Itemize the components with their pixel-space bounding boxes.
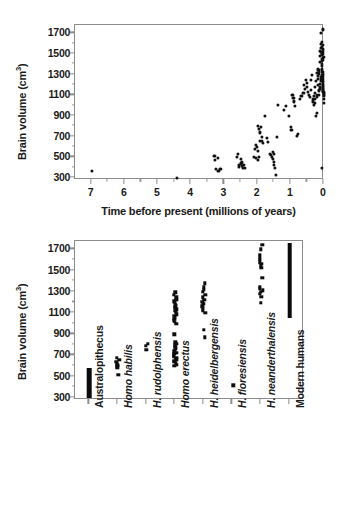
y-tick-label: 1700 bbox=[26, 242, 70, 254]
x-tick-mark bbox=[322, 179, 323, 184]
category-tick-mark bbox=[174, 399, 175, 404]
data-point bbox=[202, 328, 205, 331]
data-point bbox=[293, 100, 296, 103]
data-point bbox=[115, 356, 118, 359]
data-point bbox=[314, 114, 317, 117]
y-tick-label: 1700 bbox=[26, 26, 70, 38]
data-point bbox=[321, 166, 324, 169]
data-point bbox=[237, 153, 240, 156]
x-tick-mark bbox=[256, 179, 257, 184]
data-point bbox=[302, 92, 305, 95]
data-point bbox=[146, 342, 149, 345]
data-point bbox=[311, 73, 314, 76]
x-tick-label: 5 bbox=[154, 186, 160, 198]
x-tick-label: 1 bbox=[287, 186, 293, 198]
data-point bbox=[258, 285, 261, 288]
x-tick-mark bbox=[190, 179, 191, 184]
y-tick-label: 700 bbox=[26, 348, 70, 360]
data-point bbox=[274, 173, 277, 176]
category-tick-mark bbox=[145, 399, 146, 404]
range-bar bbox=[287, 243, 292, 318]
y-tick-label: 900 bbox=[26, 327, 70, 339]
y-tick-label: 500 bbox=[26, 370, 70, 382]
y-tick-label: 1500 bbox=[26, 47, 70, 59]
data-point bbox=[90, 169, 93, 172]
x-tick-label: 6 bbox=[121, 186, 127, 198]
category-label-2: Homo habilis bbox=[122, 344, 134, 408]
data-point bbox=[202, 285, 205, 288]
data-point bbox=[256, 158, 259, 161]
category-label-3: H. rudolphensis bbox=[151, 332, 163, 408]
data-point bbox=[322, 98, 325, 101]
y-tick-label: 300 bbox=[26, 171, 70, 183]
data-point bbox=[273, 166, 276, 169]
x-axis-label: Time before present (millions of years) bbox=[74, 205, 323, 217]
data-point bbox=[116, 373, 119, 376]
y-tick-label: 1300 bbox=[26, 285, 70, 297]
x-tick-mark-minor bbox=[206, 179, 207, 182]
y-tick-label: 1100 bbox=[26, 306, 70, 318]
data-point bbox=[312, 103, 315, 106]
y-tick-label: 300 bbox=[26, 391, 70, 403]
data-point bbox=[259, 126, 262, 129]
data-point bbox=[259, 248, 262, 251]
x-tick-label: 7 bbox=[88, 186, 94, 198]
x-tick-mark-minor bbox=[107, 179, 108, 182]
data-point bbox=[203, 282, 206, 285]
data-point bbox=[300, 95, 303, 98]
data-point bbox=[174, 291, 177, 294]
x-tick-label: 0 bbox=[320, 186, 326, 198]
figure-container: Brain volume (cm3) 300500700900110013001… bbox=[0, 0, 348, 523]
data-point bbox=[322, 101, 325, 104]
y-tick-label: 1500 bbox=[26, 264, 70, 276]
data-point bbox=[259, 131, 262, 134]
data-point bbox=[318, 90, 321, 93]
data-point bbox=[322, 55, 325, 58]
y-tick-label: 700 bbox=[26, 130, 70, 142]
data-point bbox=[232, 383, 235, 386]
data-point bbox=[176, 176, 179, 179]
data-point bbox=[306, 82, 309, 85]
x-tick-mark bbox=[223, 179, 224, 184]
category-tick-mark bbox=[288, 399, 289, 404]
data-point bbox=[203, 336, 206, 339]
y-tick-label: 1300 bbox=[26, 68, 70, 80]
data-point bbox=[145, 348, 148, 351]
x-tick-mark-minor bbox=[239, 179, 240, 182]
data-point bbox=[315, 111, 318, 114]
chart-brain-volume-vs-time: Brain volume (cm3) 300500700900110013001… bbox=[0, 0, 348, 232]
data-point bbox=[284, 104, 287, 107]
y-tick-label: 1100 bbox=[26, 88, 70, 100]
y-tick-label: 900 bbox=[26, 109, 70, 121]
data-point bbox=[260, 135, 263, 138]
x-tick-mark-minor bbox=[140, 179, 141, 182]
x-tick-label: 2 bbox=[254, 186, 260, 198]
category-label-8: Modern humans bbox=[294, 330, 306, 409]
category-label-5: H. heidelbergensis bbox=[208, 318, 220, 408]
category-tick-mark bbox=[231, 399, 232, 404]
data-point bbox=[277, 103, 280, 106]
data-point bbox=[263, 114, 266, 117]
data-point bbox=[310, 78, 313, 81]
data-point bbox=[265, 136, 268, 139]
data-point bbox=[260, 243, 263, 246]
data-point bbox=[293, 105, 296, 108]
category-tick-mark bbox=[116, 399, 117, 404]
x-tick-mark bbox=[90, 179, 91, 184]
x-tick-label: 3 bbox=[220, 186, 226, 198]
data-point bbox=[258, 155, 261, 158]
data-point bbox=[243, 167, 246, 170]
x-tick-mark bbox=[156, 179, 157, 184]
y-tick-label: 500 bbox=[26, 150, 70, 162]
data-point bbox=[319, 32, 322, 35]
data-point bbox=[290, 129, 293, 132]
category-label-7: H. neanderthalensis bbox=[265, 312, 277, 408]
data-point bbox=[216, 157, 219, 160]
data-point bbox=[174, 341, 177, 344]
x-tick-label: 4 bbox=[187, 186, 193, 198]
data-point bbox=[297, 132, 300, 135]
data-point bbox=[309, 89, 312, 92]
data-point bbox=[261, 141, 264, 144]
data-point bbox=[267, 141, 270, 144]
data-point bbox=[272, 152, 275, 155]
